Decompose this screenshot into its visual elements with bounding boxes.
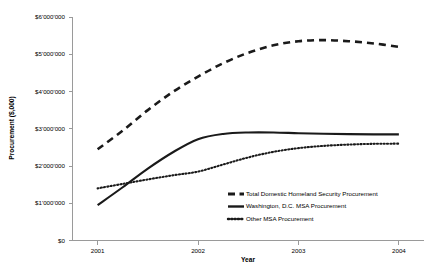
- x-axis-group: 2001200220032004 Year: [73, 241, 425, 264]
- chart-legend: Total Domestic Homeland Security Procure…: [228, 190, 378, 222]
- chart-container: $0$1'000'000$2'000'000$3'000'000$4'000'0…: [0, 0, 437, 277]
- legend-item-total-domestic[interactable]: Total Domestic Homeland Security Procure…: [228, 190, 378, 197]
- y-tick-label: $5'000'000: [35, 50, 65, 57]
- y-axis-group: $0$1'000'000$2'000'000$3'000'000$4'000'0…: [8, 13, 73, 244]
- x-axis-title: Year: [241, 256, 255, 263]
- x-axis-ticks: [98, 241, 399, 245]
- x-tick-label: 2001: [91, 247, 105, 254]
- legend-label: Washington, D.C. MSA Procurement: [246, 202, 346, 209]
- y-tick-label: $2'000'000: [35, 162, 65, 169]
- y-axis-ticks: [69, 17, 73, 241]
- series-line-other-msa: [98, 144, 399, 189]
- y-tick-label: $3'000'000: [35, 125, 65, 132]
- legend-label: Total Domestic Homeland Security Procure…: [246, 190, 378, 197]
- y-tick-label: $1'000'000: [35, 199, 65, 206]
- data-series-group: [98, 40, 399, 205]
- y-axis-tick-labels: $0$1'000'000$2'000'000$3'000'000$4'000'0…: [35, 13, 65, 244]
- x-tick-label: 2004: [392, 247, 406, 254]
- legend-label: Other MSA Procurement: [246, 215, 314, 222]
- legend-item-other-msa[interactable]: Other MSA Procurement: [228, 215, 314, 222]
- x-axis-tick-labels: 2001200220032004: [91, 247, 407, 254]
- y-tick-label: $4'000'000: [35, 88, 65, 95]
- y-axis-title: Procurement ($,000): [8, 96, 16, 159]
- x-tick-label: 2002: [191, 247, 205, 254]
- y-tick-label: $0: [58, 237, 65, 244]
- line-chart: $0$1'000'000$2'000'000$3'000'000$4'000'0…: [0, 0, 437, 277]
- legend-item-washington-dc[interactable]: Washington, D.C. MSA Procurement: [228, 202, 346, 209]
- x-tick-label: 2003: [292, 247, 306, 254]
- y-tick-label: $6'000'000: [35, 13, 65, 20]
